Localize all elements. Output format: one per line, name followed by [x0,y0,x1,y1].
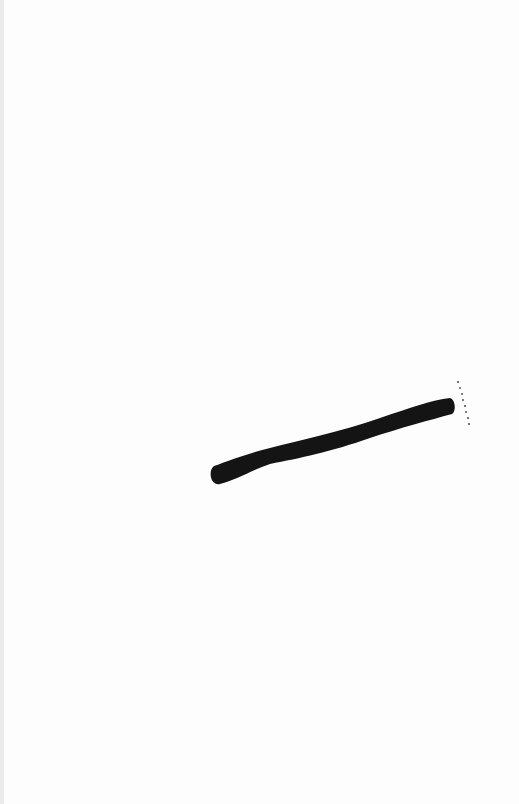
dotted-mark [457,381,470,425]
artwork [0,0,519,804]
brush-stroke [211,398,455,484]
